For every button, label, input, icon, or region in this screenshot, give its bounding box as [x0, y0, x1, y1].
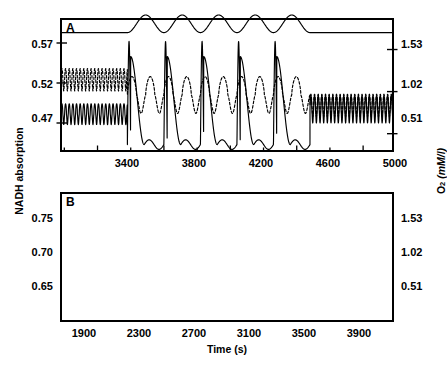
panel-a: A 0.57 0.52 0.47 1.53 1.02 0.51 3400 380…	[0, 0, 445, 180]
panel-a-plot	[0, 0, 445, 180]
panel-b-plot	[0, 180, 445, 365]
panel-b: B 0.75 0.70 0.65 1.53 1.02 0.51 1900 230…	[0, 180, 445, 365]
